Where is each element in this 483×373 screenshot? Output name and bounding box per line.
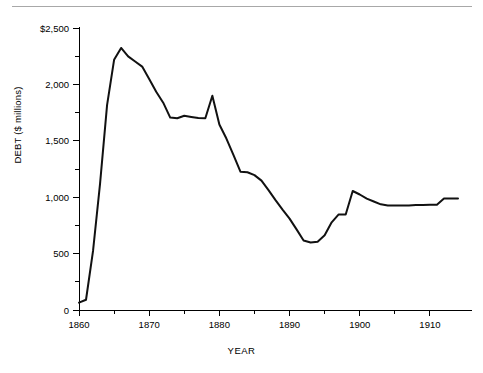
chart-plot: 05001,0001,5002,000$2,500186018701880189… <box>0 0 483 373</box>
y-tick-label: 1,500 <box>45 135 69 146</box>
x-axis-title: YEAR <box>0 345 483 356</box>
y-tick-label: 0 <box>64 305 69 316</box>
y-axis-title: DEBT ($ millions) <box>10 55 24 195</box>
figure-container: 05001,0001,5002,000$2,500186018701880189… <box>0 0 483 373</box>
y-tick-label: 2,000 <box>45 79 69 90</box>
x-tick-label: 1900 <box>349 319 370 330</box>
x-tick-label: 1910 <box>419 319 440 330</box>
y-tick-label: 1,000 <box>45 192 69 203</box>
y-axis-title-text: DEBT ($ millions) <box>12 86 23 163</box>
debt-line-series <box>79 48 458 303</box>
x-tick-label: 1880 <box>209 319 230 330</box>
y-tick-label: $2,500 <box>40 23 69 34</box>
x-tick-label: 1890 <box>279 319 300 330</box>
y-tick-label: 500 <box>53 248 69 259</box>
x-tick-label: 1870 <box>139 319 160 330</box>
x-tick-label: 1860 <box>68 319 89 330</box>
